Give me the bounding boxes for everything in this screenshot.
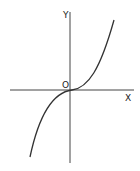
- y-axis-label: Y: [62, 10, 69, 20]
- x-axis-label: X: [125, 93, 131, 103]
- cubic-curve: [30, 20, 114, 157]
- cubic-graph: Y O X: [0, 0, 140, 171]
- origin-label: O: [62, 80, 69, 90]
